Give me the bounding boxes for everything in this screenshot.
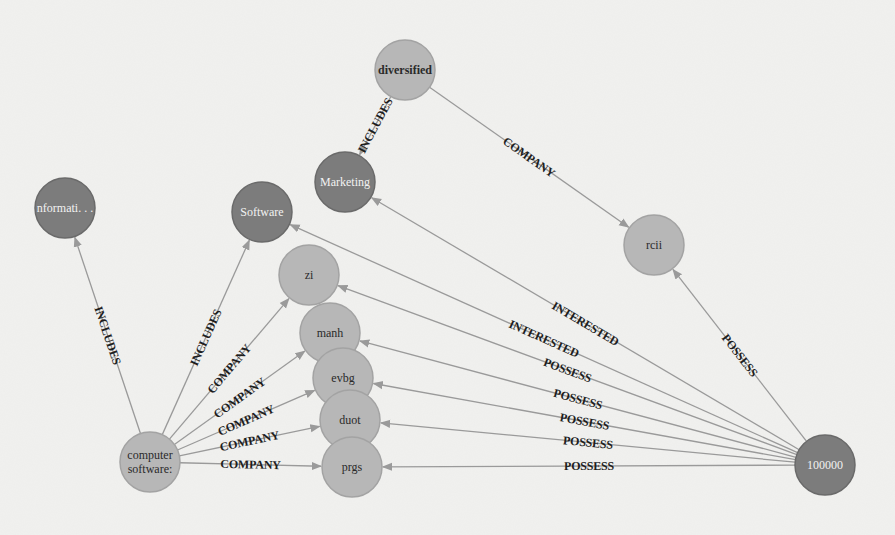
node-informati[interactable]: nformati. . .: [35, 178, 95, 238]
node-diversified[interactable]: diversified: [375, 40, 435, 100]
edge-label: POSSESS: [564, 459, 615, 473]
node-label: rcii: [646, 238, 663, 252]
node-label: diversified: [378, 63, 432, 77]
node-label: 100000: [807, 458, 843, 472]
node-software[interactable]: Software: [232, 182, 292, 242]
node-label: zi: [305, 268, 314, 282]
node-label: computer: [127, 448, 172, 462]
node-zi[interactable]: zi: [279, 245, 339, 305]
edge-label: COMPANY: [220, 457, 281, 473]
node-label: evbg: [331, 371, 354, 385]
node-prgs[interactable]: prgs: [322, 437, 382, 497]
node-marketing[interactable]: Marketing: [315, 152, 375, 212]
node-label: duot: [339, 413, 361, 427]
node-label: manh: [317, 326, 344, 340]
node-label: Software: [240, 205, 283, 219]
node-computer_software[interactable]: computersoftware:: [120, 432, 180, 492]
node-label: Marketing: [320, 175, 370, 189]
node-label: software:: [128, 462, 173, 476]
node-label: prgs: [342, 460, 363, 474]
node-label: nformati. . .: [37, 201, 93, 215]
node-n100000[interactable]: 100000: [795, 435, 855, 495]
graph-canvas[interactable]: INCLUDESCOMPANYINCLUDESINCLUDESCOMPANYCO…: [0, 0, 895, 535]
node-rcii[interactable]: rcii: [624, 215, 684, 275]
